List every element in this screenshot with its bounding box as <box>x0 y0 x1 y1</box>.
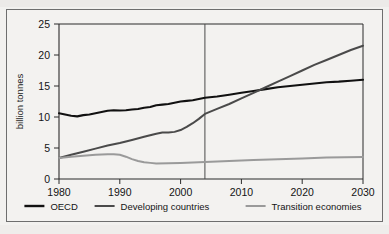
line-chart: 0510152025198019902000201020202030billio… <box>7 10 382 221</box>
x-tick-label: 2030 <box>351 186 375 198</box>
figure-frame: 0510152025198019902000201020202030billio… <box>6 9 383 222</box>
series-line-transition-economies <box>59 154 363 163</box>
series-line-developing-countries <box>59 46 363 158</box>
x-tick-label: 2020 <box>291 186 315 198</box>
y-axis-title: billion tonnes <box>14 74 25 130</box>
y-tick-label: 0 <box>44 173 50 185</box>
y-tick-label: 20 <box>38 49 50 61</box>
x-tick-label: 1980 <box>47 186 71 198</box>
scan-artifact-top <box>0 0 389 7</box>
legend-label: Developing countries <box>121 201 210 212</box>
y-tick-label: 5 <box>44 142 50 154</box>
chart-screenshot: 0510152025198019902000201020202030billio… <box>0 0 389 234</box>
x-tick-label: 2000 <box>169 186 193 198</box>
legend-label: OECD <box>50 201 78 212</box>
x-tick-label: 2010 <box>230 186 254 198</box>
y-tick-label: 15 <box>38 80 50 92</box>
x-tick-label: 1990 <box>108 186 132 198</box>
y-tick-label: 10 <box>38 111 50 123</box>
y-tick-label: 25 <box>38 18 50 30</box>
legend-label: Transition economies <box>272 201 362 212</box>
scan-artifact-bottom <box>0 225 389 234</box>
